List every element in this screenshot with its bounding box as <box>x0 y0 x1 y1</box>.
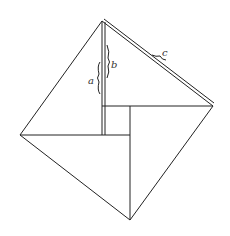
label-c: c <box>162 47 168 58</box>
label-a: a <box>88 75 94 86</box>
brace-b <box>107 45 110 78</box>
hypotenuse-double-line <box>104 19 214 103</box>
outer-square <box>20 21 213 220</box>
pythagoras-diagram: a b c <box>0 0 230 236</box>
brace-a <box>98 62 101 94</box>
label-b: b <box>111 59 117 70</box>
